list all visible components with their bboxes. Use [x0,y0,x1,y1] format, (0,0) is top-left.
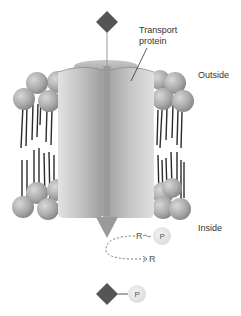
donor-r-after-label: R [149,254,156,264]
phosphate-label-donor: P [160,232,165,241]
donor-r-label: R [136,231,143,241]
diagram-stage: R P R P Transport protein Outside Inside [0,0,241,316]
phosphate-transfer: R P R [106,227,171,264]
transport-protein-label: Transport protein [139,25,189,47]
membrane-transport-diagram: R P R P [0,0,241,316]
phosphate-label-attached: P [135,290,140,299]
outside-label: Outside [198,70,229,81]
lipid-bilayer-right [150,70,194,220]
phosphorylated-substrate-inside: P [96,283,146,305]
inside-label: Inside [198,223,222,234]
